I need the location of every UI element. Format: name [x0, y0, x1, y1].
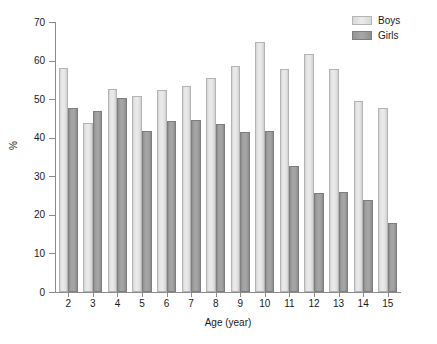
x-tick-label-age-10: 10 [259, 299, 270, 309]
x-tick [167, 292, 168, 297]
plot-area [56, 22, 400, 292]
x-tick-label-age-8: 8 [213, 299, 219, 309]
legend-label-boys: Boys [378, 16, 400, 26]
bar-girls-age-4 [117, 98, 127, 292]
x-tick [363, 292, 364, 297]
y-tick-label: 0 [39, 288, 45, 298]
x-tick [339, 292, 340, 297]
x-tick [314, 292, 315, 297]
y-tick: 0 [49, 292, 55, 293]
x-tick [289, 292, 290, 297]
bar-boys-age-9 [231, 66, 241, 292]
bar-boys-age-7 [182, 86, 192, 292]
bar-boys-age-15 [378, 108, 388, 292]
x-tick-label-age-11: 11 [284, 299, 294, 309]
bar-girls-age-13 [339, 192, 349, 292]
bar-boys-age-12 [304, 54, 314, 292]
x-tick-label-age-12: 12 [308, 299, 319, 309]
bar-girls-age-10 [265, 131, 275, 292]
x-tick-label-age-5: 5 [139, 299, 145, 309]
x-tick-label-age-13: 13 [333, 299, 344, 309]
x-axis-line [55, 292, 401, 293]
y-tick-label: 40 [34, 133, 45, 143]
legend-label-girls: Girls [378, 31, 399, 41]
x-tick-label-age-4: 4 [115, 299, 121, 309]
x-tick [93, 292, 94, 297]
x-tick [240, 292, 241, 297]
bar-chart: 010203040506070 23456789101112131415 % A… [0, 0, 437, 344]
legend: BoysGirls [352, 14, 400, 44]
y-tick: 30 [49, 176, 55, 177]
x-axis-title: Age (year) [56, 317, 400, 328]
bar-girls-age-6 [167, 121, 177, 292]
bar-boys-age-8 [206, 78, 216, 292]
y-tick: 10 [49, 253, 55, 254]
legend-item-boys: Boys [352, 14, 400, 27]
y-tick-label: 30 [34, 172, 45, 182]
x-tick [142, 292, 143, 297]
x-tick [265, 292, 266, 297]
x-tick [191, 292, 192, 297]
x-tick [216, 292, 217, 297]
x-tick-label-age-6: 6 [164, 299, 170, 309]
legend-item-girls: Girls [352, 29, 400, 42]
y-tick: 50 [49, 99, 55, 100]
y-axis-title: % [8, 141, 19, 150]
bar-girls-age-8 [216, 124, 226, 292]
y-tick: 70 [49, 22, 55, 23]
bar-girls-age-7 [191, 120, 201, 292]
bar-girls-age-12 [314, 193, 324, 293]
x-tick [388, 292, 389, 297]
bar-boys-age-10 [255, 42, 265, 292]
y-tick-label: 70 [34, 18, 45, 28]
legend-swatch-boys [352, 16, 372, 25]
bar-boys-age-6 [157, 90, 167, 293]
x-tick [117, 292, 118, 297]
y-tick: 40 [49, 138, 55, 139]
bar-girls-age-9 [240, 132, 250, 292]
bar-boys-age-14 [354, 101, 364, 292]
y-tick-label: 50 [34, 95, 45, 105]
x-tick-label-age-2: 2 [66, 299, 72, 309]
bar-boys-age-2 [59, 68, 69, 292]
x-tick [68, 292, 69, 297]
x-tick-label-age-14: 14 [358, 299, 369, 309]
y-tick-label: 60 [34, 56, 45, 66]
x-tick-label-age-15: 15 [382, 299, 393, 309]
bar-boys-age-11 [280, 69, 290, 292]
bar-girls-age-15 [388, 223, 398, 292]
bar-girls-age-2 [68, 108, 78, 292]
x-tick-label-age-7: 7 [188, 299, 194, 309]
y-tick-label: 10 [34, 249, 45, 259]
y-tick: 20 [49, 215, 55, 216]
x-tick-label-age-9: 9 [238, 299, 244, 309]
y-tick-label: 20 [34, 210, 45, 220]
y-tick: 60 [49, 61, 55, 62]
legend-swatch-girls [352, 31, 372, 40]
bar-girls-age-14 [363, 200, 373, 292]
bar-boys-age-3 [83, 123, 93, 292]
bar-boys-age-13 [329, 69, 339, 292]
bar-boys-age-5 [132, 96, 142, 292]
bar-boys-age-4 [108, 89, 118, 292]
x-tick-label-age-3: 3 [90, 299, 96, 309]
bar-girls-age-11 [289, 166, 299, 293]
bar-girls-age-3 [93, 111, 103, 292]
bar-girls-age-5 [142, 131, 152, 292]
